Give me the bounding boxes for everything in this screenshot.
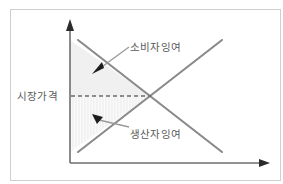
producer-surplus-label: 생산자잉여: [130, 126, 181, 141]
consumer-surplus-label: 소비자잉여: [130, 39, 181, 54]
consumer-surplus-pointer-line: [99, 47, 129, 69]
diagram-canvas: 시장가격 소비자잉여 생산자잉여: [0, 0, 283, 184]
x-axis-arrow-icon: [259, 159, 270, 167]
y-axis-arrow-icon: [66, 19, 74, 31]
market-price-label: 시장가격: [17, 88, 58, 103]
